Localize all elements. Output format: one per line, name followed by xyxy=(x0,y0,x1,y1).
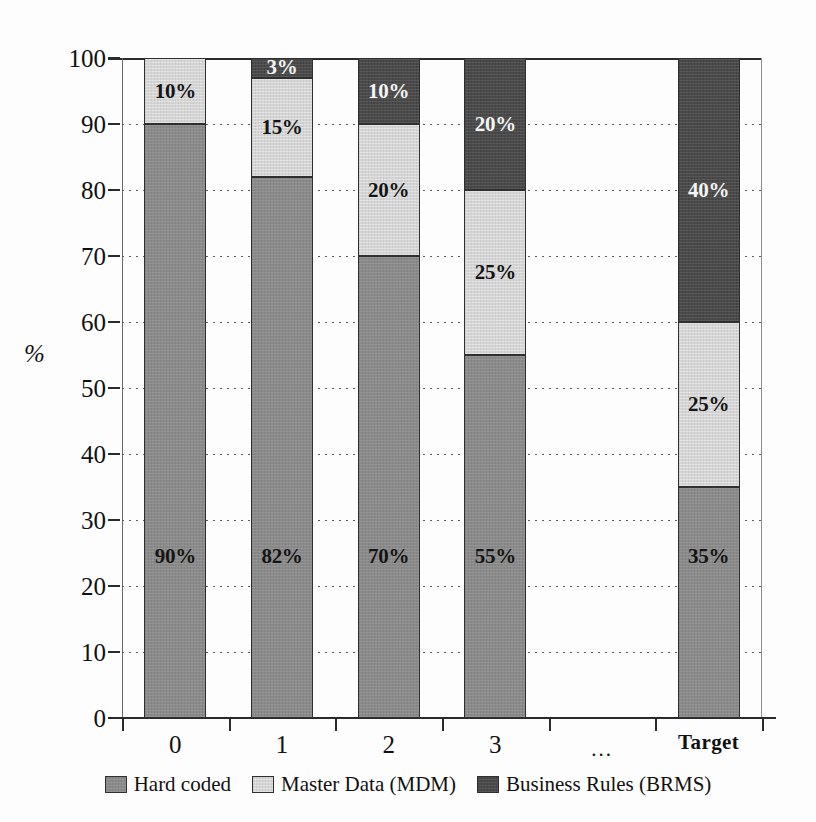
y-axis-tick-label: 30 xyxy=(28,508,106,533)
y-axis-tick-label: 80 xyxy=(28,178,106,203)
stacked-bar-chart-figure: % 1009080706050403020100 90%10%82%15%3%7… xyxy=(0,0,816,822)
x-axis-tick-mark xyxy=(442,718,444,731)
y-axis-tick-labels: 1009080706050403020100 xyxy=(22,0,106,822)
bar-segment-business-rules[interactable]: 3% xyxy=(251,58,313,78)
legend-swatch-brms xyxy=(477,776,499,793)
gridline xyxy=(122,652,762,653)
bar-segment-hard-coded[interactable]: 70% xyxy=(358,256,420,718)
y-axis-tick-mark xyxy=(108,519,120,521)
y-axis-tick-label: 50 xyxy=(28,376,106,401)
x-axis-tick-mark xyxy=(335,718,337,731)
bar-group[interactable]: 70%20%10% xyxy=(358,58,420,718)
x-axis-tick-label: ... xyxy=(591,738,613,761)
y-axis-tick-mark xyxy=(108,585,120,587)
y-axis-tick-label: 0 xyxy=(28,706,106,731)
bar-segment-business-rules[interactable]: 10% xyxy=(358,58,420,124)
x-axis-tick-label: 0 xyxy=(169,731,182,759)
bar-group[interactable]: 55%25%20% xyxy=(464,58,526,718)
bar-segment-hard-coded[interactable]: 55% xyxy=(464,355,526,718)
bar-segment-value-label: 82% xyxy=(261,546,302,567)
y-axis-tick-mark xyxy=(108,387,120,389)
x-axis-tick-mark xyxy=(655,718,657,731)
bar-segment-master-data[interactable]: 25% xyxy=(464,190,526,355)
legend-label: Business Rules (BRMS) xyxy=(506,772,711,797)
bar-segment-value-label: 25% xyxy=(688,394,729,415)
y-axis-tick-mark xyxy=(108,651,120,653)
legend-swatch-mdm xyxy=(252,776,274,793)
gridline xyxy=(122,586,762,587)
bar-segment-hard-coded[interactable]: 82% xyxy=(251,177,313,718)
gridline xyxy=(122,322,762,323)
bar-segment-hard-coded[interactable]: 90% xyxy=(144,124,206,718)
bar-segment-value-label: 25% xyxy=(475,262,516,283)
bar-segment-value-label: 15% xyxy=(261,117,302,138)
bar-segment-value-label: 20% xyxy=(368,180,409,201)
y-axis-tick-label: 90 xyxy=(28,112,106,137)
y-axis-tick-label: 100 xyxy=(28,46,106,71)
bar-segment-value-label: 90% xyxy=(155,546,196,567)
bar-segment-value-label: 40% xyxy=(688,180,729,201)
y-axis-tick-mark xyxy=(108,255,120,257)
y-axis-tick-mark xyxy=(108,453,120,455)
bar-segment-hard-coded[interactable]: 35% xyxy=(678,487,740,718)
x-axis-tick-mark xyxy=(122,718,124,731)
y-axis-tick-label: 10 xyxy=(28,640,106,665)
y-axis-tick-label: 20 xyxy=(28,574,106,599)
bar-segment-value-label: 20% xyxy=(475,114,516,135)
bar-segment-business-rules[interactable]: 40% xyxy=(678,58,740,322)
x-axis: 0123...Target xyxy=(108,718,776,764)
bar-segment-business-rules[interactable]: 20% xyxy=(464,58,526,190)
plot-area: 90%10%82%15%3%70%20%10%55%25%20%35%25%40… xyxy=(122,58,762,718)
y-axis-tick-mark xyxy=(108,321,120,323)
gridline xyxy=(122,190,762,191)
legend-item-hard[interactable]: Hard coded xyxy=(105,772,231,797)
bar-segment-master-data[interactable]: 20% xyxy=(358,124,420,256)
bar-segment-value-label: 3% xyxy=(267,58,298,78)
gridline xyxy=(122,454,762,455)
x-axis-tick-label: 1 xyxy=(276,731,289,759)
bar-segment-value-label: 70% xyxy=(368,546,409,567)
bar-segment-value-label: 10% xyxy=(368,81,409,102)
bar-segment-value-label: 55% xyxy=(475,546,516,567)
y-axis-tick-mark xyxy=(108,123,120,125)
gridline xyxy=(122,256,762,257)
gridline xyxy=(122,520,762,521)
bar-group[interactable]: 82%15%3% xyxy=(251,58,313,718)
gridline xyxy=(122,124,762,125)
chart-legend: Hard codedMaster Data (MDM)Business Rule… xyxy=(0,772,816,797)
bar-segment-master-data[interactable]: 10% xyxy=(144,58,206,124)
legend-item-brms[interactable]: Business Rules (BRMS) xyxy=(477,772,711,797)
legend-swatch-hard xyxy=(105,776,127,793)
legend-label: Master Data (MDM) xyxy=(281,772,456,797)
gridline xyxy=(122,388,762,389)
bar-segment-value-label: 35% xyxy=(688,546,729,567)
bar-segment-master-data[interactable]: 15% xyxy=(251,78,313,177)
bar-segment-master-data[interactable]: 25% xyxy=(678,322,740,487)
x-axis-tick-mark xyxy=(549,718,551,731)
x-axis-tick-label: 3 xyxy=(489,731,502,759)
legend-item-mdm[interactable]: Master Data (MDM) xyxy=(252,772,456,797)
y-axis-tick-label: 40 xyxy=(28,442,106,467)
y-axis-tick-label: 60 xyxy=(28,310,106,335)
bar-segment-value-label: 10% xyxy=(155,81,196,102)
y-axis-tick-label: 70 xyxy=(28,244,106,269)
y-axis-tick-mark xyxy=(108,189,120,191)
bar-group[interactable]: 35%25%40% xyxy=(678,58,740,718)
x-axis-tick-label: Target xyxy=(678,731,739,754)
x-axis-tick-mark xyxy=(229,718,231,731)
x-axis-tick-mark xyxy=(762,718,764,731)
legend-label: Hard coded xyxy=(134,772,231,797)
bar-group[interactable]: 90%10% xyxy=(144,58,206,718)
x-axis-tick-label: 2 xyxy=(382,731,395,759)
